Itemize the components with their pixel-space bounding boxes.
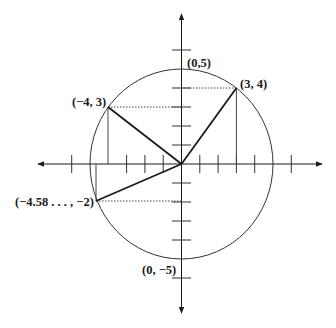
radius-segments <box>96 88 236 201</box>
label-point-neg458-neg2: (−4.58 . . . , −2) <box>15 195 94 209</box>
radius-to-neg458-neg2 <box>96 164 182 201</box>
label-point-0-5: (0,5) <box>187 56 211 70</box>
coordinate-diagram: (0,5) (3, 4) (−4, 3) (−4.58 . . . , −2) … <box>0 0 336 328</box>
projection-lines <box>96 88 236 201</box>
label-point-3-4: (3, 4) <box>240 77 267 91</box>
label-point-0-neg5: (0, −5) <box>142 263 176 277</box>
label-point-neg4-3: (−4, 3) <box>72 95 106 109</box>
